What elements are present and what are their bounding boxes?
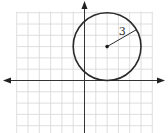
x-axis-left-arrow-icon (3, 78, 11, 84)
coordinate-plane-diagram: 3 (0, 0, 168, 133)
x-axis-right-arrow-icon (157, 78, 165, 84)
circle-center-point (105, 45, 109, 49)
y-axis-up-arrow-icon (82, 1, 88, 9)
radius-label: 3 (119, 25, 126, 38)
